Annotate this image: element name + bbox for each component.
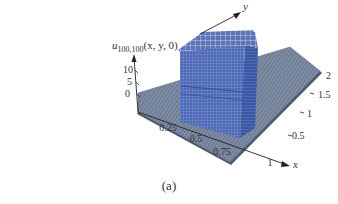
z-tick-0: 0: [125, 88, 130, 99]
z-axis-label: u100,100(x, y, 0): [112, 39, 178, 54]
y-tick-1.5: 1.5: [318, 89, 331, 100]
z-axis: [134, 57, 138, 112]
z-axis-arrow-icon: [132, 54, 137, 62]
surface-plot: 0 5 10 u100,100(x, y, 0) y x 0.25 0.5 0.…: [0, 0, 338, 204]
x-axis-label: x: [292, 158, 298, 170]
z-tick-10: 10: [123, 64, 133, 75]
x-tick-0.25: 0.25: [159, 122, 177, 133]
x-axis-arrow-icon: [281, 161, 290, 167]
x-tick-0.5: 0.5: [190, 133, 203, 144]
y-tick-2: 2: [326, 70, 331, 81]
y-axis-label: y: [242, 0, 248, 12]
y-axis-arrow-icon: [233, 12, 241, 19]
figure-caption: (a): [162, 178, 176, 194]
y-tick-1: 1: [307, 108, 312, 119]
x-tick-0.75: 0.75: [213, 146, 231, 157]
y-tick-0.5: 0.5: [292, 130, 305, 141]
z-tick-5: 5: [127, 76, 132, 87]
x-tick-1: 1: [268, 157, 273, 168]
